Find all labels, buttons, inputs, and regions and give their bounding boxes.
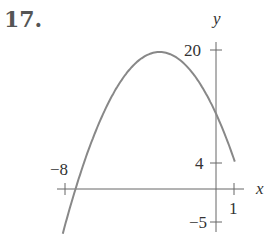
x-axis-label: x	[255, 179, 264, 198]
y-tick-label-4: 4	[195, 154, 204, 173]
parabola-curve	[63, 52, 235, 234]
x-tick-label-1: 1	[229, 199, 238, 218]
y-tick-label-neg5: −5	[189, 213, 207, 232]
y-axis-label: y	[211, 9, 221, 28]
y-tick-label-20: 20	[184, 41, 201, 60]
parabola-chart: y x 20 4 −5 −8 1	[0, 0, 274, 245]
x-tick-label-neg8: −8	[50, 160, 68, 179]
